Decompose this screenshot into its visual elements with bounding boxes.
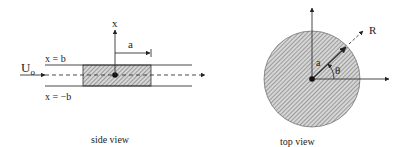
top-view: R a θ top view [264, 8, 389, 147]
axis-label-x: x [112, 17, 118, 29]
side-view-caption: side view [91, 134, 130, 145]
top-view-caption: top view [280, 136, 315, 147]
side-view: x a x = b x = −b Uo side view [20, 17, 205, 145]
upper-wall-label: x = b [45, 53, 66, 64]
radius-label-a: a [128, 38, 133, 50]
lower-wall-label: x = −b [45, 91, 71, 102]
r-direction-arrow-icon [349, 31, 363, 44]
flow-velocity-label: Uo [21, 60, 35, 77]
diagram-canvas: x a x = b x = −b Uo side view R a θ top … [0, 0, 411, 147]
radius-label-a: a [316, 57, 321, 68]
center-dot [309, 76, 315, 82]
theta-label: θ [335, 64, 340, 76]
r-label: R [369, 24, 377, 36]
